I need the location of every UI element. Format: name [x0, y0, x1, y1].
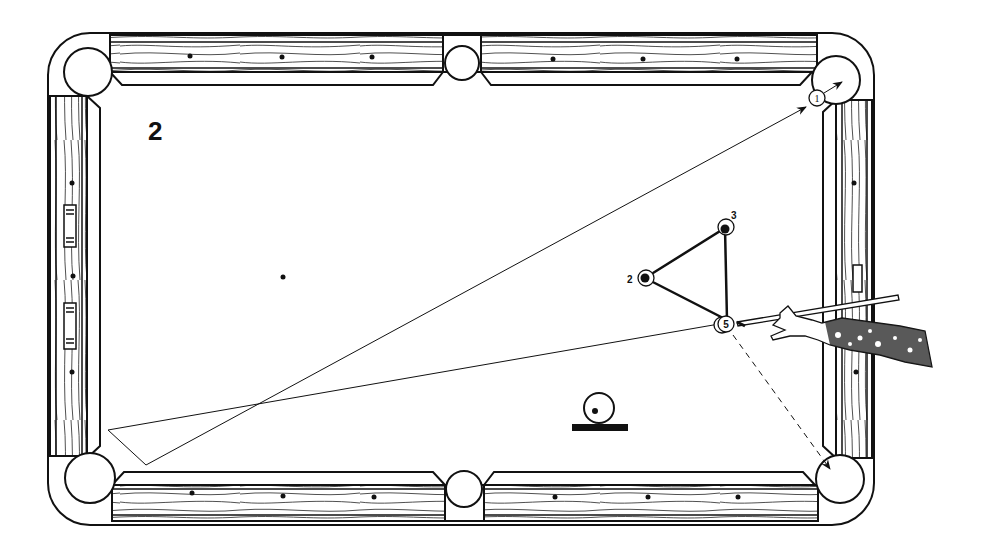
ball-2: 2 [627, 270, 654, 286]
pocket-bottom-right [816, 455, 864, 503]
ball-triangle [645, 228, 727, 320]
table-spot [281, 275, 286, 280]
svg-text:1: 1 [815, 93, 820, 104]
pocket-bottom-left [65, 453, 115, 503]
rail-diamonds [70, 54, 859, 500]
top-rail-left [110, 35, 443, 72]
pocket-top-left [64, 48, 112, 96]
ball-5: 5 [714, 316, 734, 333]
ball-5-dashed-path [733, 335, 830, 469]
svg-text:3: 3 [731, 210, 737, 221]
cue-ball-path [108, 107, 806, 465]
bottom-rail-right [484, 485, 818, 521]
diagram-number: 2 [148, 116, 162, 147]
ball-3: 3 [718, 210, 737, 235]
svg-text:2: 2 [627, 274, 633, 285]
svg-text:5: 5 [723, 319, 729, 330]
cushions [87, 72, 836, 485]
pocket-top-middle [443, 35, 481, 80]
ball-1: 1 [809, 90, 825, 106]
left-rail [50, 96, 87, 456]
bottom-rail-left [112, 485, 445, 521]
top-rail-right [481, 35, 817, 72]
pocket-bottom-middle [445, 471, 484, 521]
right-rail-hardware [853, 265, 862, 292]
pool-table-diagram: 1 2 3 5 [0, 0, 982, 551]
cue-ball-position-symbol [572, 393, 628, 431]
